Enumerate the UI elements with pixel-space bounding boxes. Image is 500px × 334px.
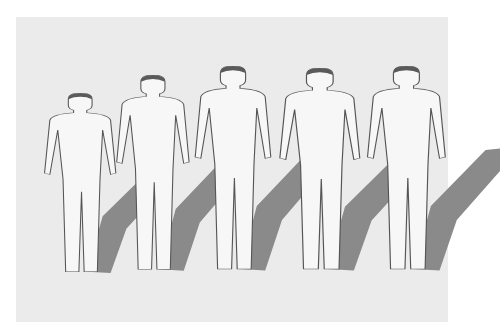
figure-stage-5 (356, 66, 500, 276)
